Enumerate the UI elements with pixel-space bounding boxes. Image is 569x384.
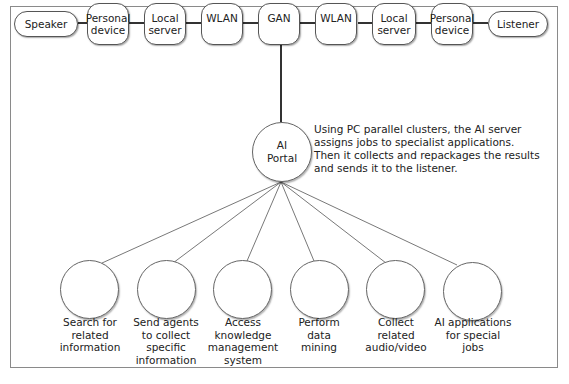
node-app-mining bbox=[290, 260, 349, 319]
node-gan-label: GAN bbox=[267, 12, 290, 24]
node-wlan-receiver-label: WLAN bbox=[320, 12, 352, 24]
node-app-knowledge bbox=[213, 260, 272, 319]
node-local-server-sender: Local server bbox=[144, 3, 186, 45]
node-local-server-receiver: Local server bbox=[372, 3, 416, 45]
node-wlan-receiver: WLAN bbox=[315, 3, 357, 45]
node-app-audio-video bbox=[366, 260, 425, 319]
node-local-server-receiver-label: Local server bbox=[377, 12, 410, 36]
node-local-server-sender-label: Local server bbox=[148, 12, 181, 36]
node-gan: GAN bbox=[258, 3, 300, 45]
node-app-agents bbox=[137, 260, 196, 319]
node-personal-device-sender: Personal device bbox=[87, 3, 129, 45]
node-listener: Listener bbox=[488, 11, 548, 37]
node-wlan-sender-label: WLAN bbox=[206, 12, 238, 24]
portal-description: Using PC parallel clusters, the AI serve… bbox=[314, 123, 554, 175]
node-wlan-sender: WLAN bbox=[201, 3, 243, 45]
node-speaker: Speaker bbox=[14, 11, 78, 37]
node-speaker-label: Speaker bbox=[25, 18, 68, 30]
node-listener-label: Listener bbox=[497, 18, 539, 30]
node-app-search bbox=[60, 260, 119, 319]
node-personal-device-receiver-label: Personal device bbox=[430, 12, 475, 36]
node-ai-portal: AI Portal bbox=[252, 122, 312, 182]
node-ai-portal-label: AI Portal bbox=[267, 139, 297, 165]
caption-app-ai-apps: AI applications for special jobs bbox=[428, 316, 518, 354]
node-personal-device-receiver: Personal device bbox=[431, 3, 473, 45]
node-app-ai-apps bbox=[443, 262, 502, 321]
node-personal-device-sender-label: Personal device bbox=[86, 12, 131, 36]
